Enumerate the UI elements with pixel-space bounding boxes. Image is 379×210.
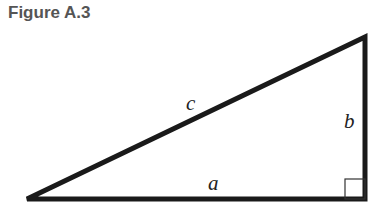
right-triangle — [27, 37, 365, 199]
right-triangle-diagram: c b a — [0, 0, 379, 210]
right-angle-marker — [345, 179, 365, 199]
label-b: b — [344, 109, 355, 133]
label-c: c — [186, 91, 196, 115]
label-a: a — [208, 171, 219, 195]
